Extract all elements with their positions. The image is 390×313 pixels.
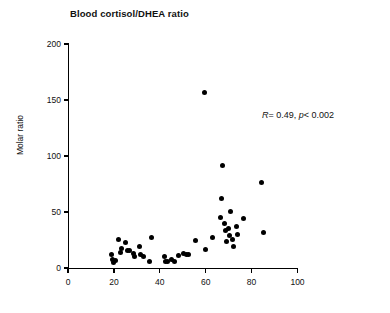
x-axis-tick bbox=[113, 268, 114, 273]
data-point bbox=[231, 244, 236, 249]
y-axis-tick-label: 200 bbox=[21, 39, 61, 49]
y-axis-tick-label: 150 bbox=[21, 95, 61, 105]
y-axis-tick bbox=[64, 43, 69, 44]
x-axis-tick-label: 20 bbox=[99, 277, 129, 287]
data-point bbox=[203, 247, 208, 252]
data-point bbox=[123, 240, 128, 245]
scatter-plot-figure: Blood cortisol/DHEA ratio R= 0.49, p< 0.… bbox=[0, 0, 390, 313]
y-axis-tick-label: 0 bbox=[21, 263, 61, 273]
y-axis-tick bbox=[64, 155, 69, 156]
data-point bbox=[176, 253, 181, 258]
x-axis-tick bbox=[251, 268, 252, 273]
x-axis-tick-label: 80 bbox=[237, 277, 267, 287]
x-axis-tick-label: 0 bbox=[53, 277, 83, 287]
data-point bbox=[259, 180, 264, 185]
data-point bbox=[219, 196, 224, 201]
x-axis-tick bbox=[297, 268, 298, 273]
data-point bbox=[118, 250, 123, 255]
data-point bbox=[119, 246, 124, 251]
data-point bbox=[261, 230, 266, 235]
y-axis-tick-label: 100 bbox=[21, 151, 61, 161]
x-axis-tick-label: 100 bbox=[283, 277, 313, 287]
data-point bbox=[186, 252, 191, 257]
data-point bbox=[137, 244, 142, 249]
data-point bbox=[193, 238, 198, 243]
y-axis-tick-label: 50 bbox=[21, 207, 61, 217]
data-point bbox=[222, 221, 227, 226]
data-point bbox=[141, 254, 146, 259]
data-point bbox=[224, 239, 229, 244]
data-point bbox=[132, 254, 137, 259]
x-axis-tick-label: 40 bbox=[145, 277, 175, 287]
data-point bbox=[162, 254, 167, 259]
y-axis-tick bbox=[64, 211, 69, 212]
y-axis-tick bbox=[64, 99, 69, 100]
data-point bbox=[241, 216, 246, 221]
data-point bbox=[202, 90, 207, 95]
data-point bbox=[210, 235, 215, 240]
x-axis-tick bbox=[159, 268, 160, 273]
data-point bbox=[172, 259, 177, 264]
data-point bbox=[226, 226, 231, 231]
x-axis-tick bbox=[67, 268, 68, 273]
data-point bbox=[218, 215, 223, 220]
data-point bbox=[220, 163, 225, 168]
data-point bbox=[147, 259, 152, 264]
data-point bbox=[109, 252, 114, 257]
data-point bbox=[235, 232, 240, 237]
data-point bbox=[113, 258, 118, 263]
data-point bbox=[149, 235, 154, 240]
data-point bbox=[234, 224, 239, 229]
x-axis-tick bbox=[205, 268, 206, 273]
x-axis-tick-label: 60 bbox=[191, 277, 221, 287]
data-point bbox=[116, 237, 121, 242]
data-point bbox=[230, 237, 235, 242]
data-point bbox=[228, 209, 233, 214]
